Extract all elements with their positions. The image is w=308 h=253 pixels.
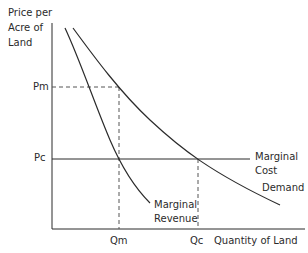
marginal-revenue-label-line-1: Marginal [154,198,197,212]
marginal-revenue-curve [65,28,150,203]
marginal-cost-label-line-1: Marginal [255,150,298,164]
x-axis-title: Quantity of Land [214,234,298,248]
y-tick-pc: Pc [34,151,46,165]
y-axis-title-line-2: Acre of [8,20,68,35]
x-tick-qm: Qm [110,234,128,248]
x-tick-qc: Qc [190,234,203,248]
y-axis-title-line-3: Land [8,35,68,50]
marginal-cost-label-line-2: Cost [255,164,277,178]
y-axis-title-line-1: Price per [8,5,68,20]
y-tick-pm: Pm [33,80,49,94]
demand-curve [73,28,280,205]
demand-label: Demand [262,181,304,195]
marginal-revenue-label-line-2: Revenue [154,212,198,226]
y-axis-title: Price per Acre of Land [8,5,68,50]
